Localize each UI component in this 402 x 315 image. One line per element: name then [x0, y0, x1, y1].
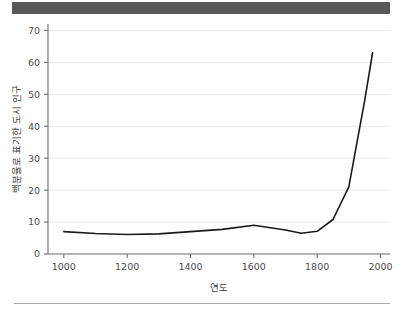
x-tick-label: 1600 [242, 261, 266, 272]
y-tick-label: 40 [28, 121, 40, 132]
top-banner-bar [12, 2, 390, 14]
x-tick-label: 1000 [52, 261, 76, 272]
y-tick-label: 50 [28, 89, 40, 100]
line-chart: 010203040506070 100012001400160018002000… [0, 14, 402, 299]
x-tick-label: 1400 [178, 261, 202, 272]
y-tick-label: 70 [28, 25, 40, 36]
y-axis-ticks-group: 010203040506070 [28, 25, 48, 260]
y-tick-label: 30 [28, 153, 40, 164]
y-tick-label: 0 [34, 248, 40, 259]
x-tick-label: 2000 [368, 261, 392, 272]
chart-figure: 010203040506070 100012001400160018002000… [0, 14, 402, 299]
x-tick-label: 1800 [305, 261, 329, 272]
gridlines-group [48, 30, 390, 222]
bottom-divider-rule [14, 303, 390, 304]
x-tick-label: 1200 [115, 261, 139, 272]
y-tick-label: 10 [28, 216, 40, 227]
y-tick-label: 20 [28, 185, 40, 196]
data-series-line [64, 53, 373, 235]
y-axis-title: 백분율로 표기한 도시 인구 [11, 85, 22, 193]
x-axis-ticks-group: 100012001400160018002000 [52, 254, 393, 272]
x-axis-title: 연도 [210, 282, 228, 293]
y-tick-label: 60 [28, 57, 40, 68]
